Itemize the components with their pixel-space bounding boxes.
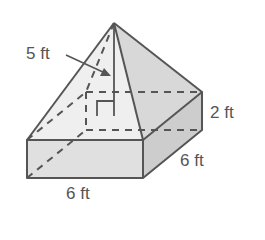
prism-front-face <box>27 140 143 178</box>
label-prism-height: 2 ft <box>210 104 234 121</box>
label-depth: 6 ft <box>180 152 204 169</box>
label-slant-height: 5 ft <box>26 45 50 62</box>
label-width: 6 ft <box>66 185 90 202</box>
